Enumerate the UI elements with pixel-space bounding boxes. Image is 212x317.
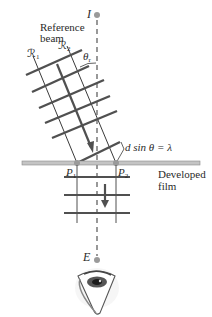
angle-label: θr [83,51,91,66]
point1-label: P1 [66,167,76,182]
ray2-label: ℛ2 [58,40,71,55]
ray-r1 [33,56,77,163]
eye-point-e [94,257,100,263]
source-label: I [87,9,91,20]
spacing-bracket [116,142,124,163]
eye-label: E [83,252,90,263]
film-label: Developed film [158,168,206,192]
arrowhead-icon [87,141,94,153]
point2-label: P2 [118,167,128,182]
eye-icon [75,268,119,314]
arrowhead-down-icon [101,200,109,208]
equation-label: d sin θ = λ [125,142,172,153]
developed-film [22,161,200,165]
wavefronts [26,50,120,163]
source-point-i [94,12,100,18]
ray1-label: ℛ1 [27,48,40,63]
